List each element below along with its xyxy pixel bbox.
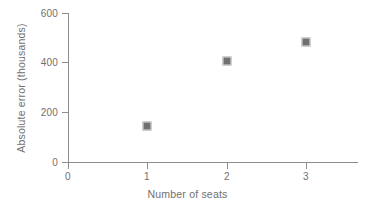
x-axis-tick-0 xyxy=(68,163,69,169)
x-axis-tick-label-3: 3 xyxy=(303,171,309,182)
x-axis-title: Number of seats xyxy=(0,188,375,200)
x-axis-tick-label-0: 0 xyxy=(65,171,71,182)
y-axis-tick-label-600: 600 xyxy=(41,8,62,19)
scatter-chart-figure: 600 400 200 0 0 1 2 3 Absolute error (th… xyxy=(0,0,375,211)
x-axis-tick-2 xyxy=(227,163,228,169)
data-point xyxy=(143,121,152,130)
y-axis-tick-600 xyxy=(62,13,68,14)
y-axis-tick-label-400: 400 xyxy=(41,57,62,68)
y-axis-tick-label-200: 200 xyxy=(41,107,62,118)
data-point xyxy=(222,57,231,66)
y-axis-line xyxy=(68,13,69,163)
y-axis-title-wrapper: Absolute error (thousands) xyxy=(14,0,28,175)
y-axis-tick-400 xyxy=(62,62,68,63)
data-point xyxy=(302,37,311,46)
y-axis-title: Absolute error (thousands) xyxy=(15,23,27,153)
x-axis-tick-1 xyxy=(147,163,148,169)
x-axis-tick-3 xyxy=(306,163,307,169)
y-axis-tick-200 xyxy=(62,112,68,113)
x-axis-tick-label-2: 2 xyxy=(224,171,230,182)
x-axis-tick-label-1: 1 xyxy=(144,171,150,182)
y-axis-tick-label-0: 0 xyxy=(52,157,62,168)
x-axis-line xyxy=(68,162,358,163)
